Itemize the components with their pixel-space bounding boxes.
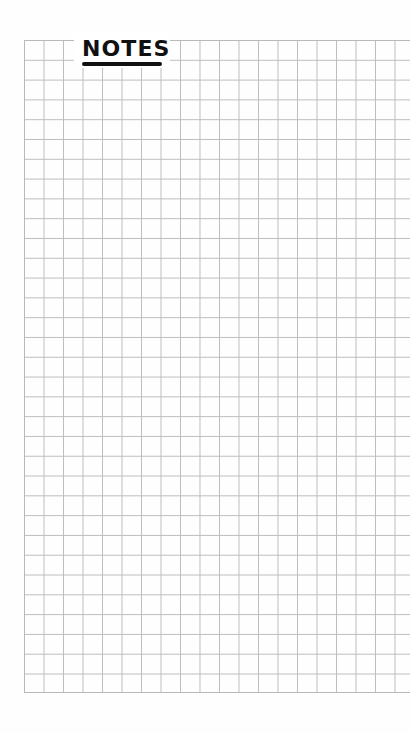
page-title: NOTES: [82, 38, 170, 60]
title-underline: [82, 62, 162, 66]
notes-page: NOTES: [0, 0, 410, 733]
graph-paper-grid: [24, 40, 410, 693]
